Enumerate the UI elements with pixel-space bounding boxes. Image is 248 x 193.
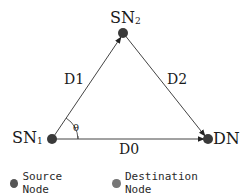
- node-label-dn: DN: [213, 131, 240, 147]
- legend-item-source-node: Source Node: [10, 170, 90, 193]
- node-dn: [203, 134, 213, 144]
- destination-node-dot-icon: [112, 179, 120, 188]
- node-label-sn1: SN1: [12, 130, 43, 146]
- node-label-sn2: SN2: [110, 10, 141, 26]
- node-label-subscript: 1: [37, 136, 43, 146]
- edge-label-d1: D1: [64, 72, 84, 86]
- edge-d1: [52, 37, 121, 139]
- angle-label-theta: θ: [73, 123, 79, 133]
- diagram-graphics: [0, 0, 248, 193]
- node-label-text: SN: [12, 128, 37, 147]
- edge-d2: [124, 34, 205, 136]
- edge-label-d2: D2: [167, 72, 187, 86]
- node-label-text: SN: [110, 8, 135, 27]
- legend-label: Source Node: [22, 170, 90, 193]
- node-label-text: DN: [213, 129, 240, 148]
- source-node-dot-icon: [10, 179, 18, 188]
- legend-item-destination-node: Destination Node: [112, 170, 224, 193]
- triangle-network-diagram: SN2 SN1 DN D1 D2 D0 θ Source Node Destin…: [0, 0, 248, 193]
- legend-label: Destination Node: [125, 170, 224, 193]
- edge-label-d0: D0: [119, 142, 139, 156]
- node-sn1: [47, 134, 57, 144]
- node-label-subscript: 2: [135, 16, 141, 26]
- node-sn2: [118, 28, 128, 38]
- legend: Source Node Destination Node: [10, 170, 246, 193]
